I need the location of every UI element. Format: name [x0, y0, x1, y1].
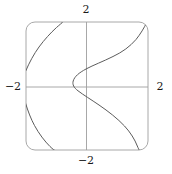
axis-tick-label-top: 2: [0, 4, 172, 15]
plot-frame: [26, 22, 148, 150]
plot-figure: 2 −2 −2 2: [0, 0, 172, 174]
curve-lower-left-branch: [26, 103, 57, 151]
axis-tick-label-bottom: −2: [0, 155, 172, 166]
axis-tick-label-right: 2: [150, 81, 170, 92]
curve-main-branch: [73, 22, 147, 150]
plot-canvas: [0, 0, 172, 174]
axis-tick-label-left: −2: [2, 81, 24, 92]
curve-upper-left-branch: [26, 22, 64, 72]
